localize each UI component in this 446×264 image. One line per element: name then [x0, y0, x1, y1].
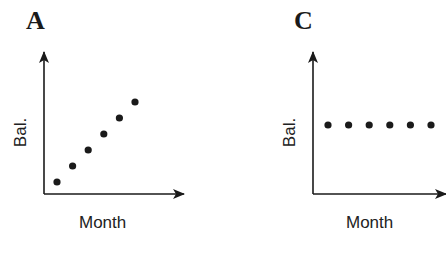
- data-point: [53, 178, 60, 185]
- panel-a-data-points: [53, 98, 138, 185]
- charts-canvas: [0, 0, 446, 264]
- panel-c-data-points: [324, 121, 434, 128]
- data-point: [100, 130, 107, 137]
- panel-a-axes: [44, 52, 184, 194]
- data-point: [324, 121, 331, 128]
- data-point: [366, 121, 373, 128]
- panel-c-axes: [313, 52, 446, 194]
- data-point: [427, 121, 434, 128]
- data-point: [345, 121, 352, 128]
- data-point: [116, 114, 123, 121]
- data-point: [386, 121, 393, 128]
- data-point: [407, 121, 414, 128]
- data-point: [85, 146, 92, 153]
- data-point: [131, 98, 138, 105]
- data-point: [69, 162, 76, 169]
